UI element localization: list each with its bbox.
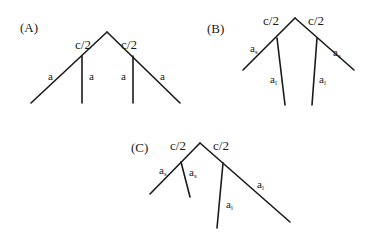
panel-a-edge-3: a <box>121 70 126 82</box>
panel-a-edge-1: a <box>48 70 53 82</box>
panel-c-long-leg <box>217 163 223 228</box>
panel-b-right-long-leg <box>312 38 317 105</box>
panel-b-edge-4: as <box>333 46 341 60</box>
panel-c-right-branch <box>200 143 290 222</box>
panel-b-left-long-leg <box>277 38 285 105</box>
panel-b-edge-1: as <box>250 42 258 56</box>
panel-b-edge-3: al <box>319 73 326 87</box>
panel-a: (A) c/2 c/2 a a a a <box>20 20 180 103</box>
panel-c-edge-3: al <box>226 198 233 212</box>
panel-a-left-branch <box>31 32 107 103</box>
panel-c: (C) c/2 c/2 as as al al <box>131 138 290 228</box>
panel-c-edge-2: as <box>189 166 197 180</box>
panel-a-label: (A) <box>20 20 38 35</box>
panel-a-edge-2: a <box>89 70 94 82</box>
panel-c-half-left: c/2 <box>170 138 186 153</box>
panel-c-half-right: c/2 <box>213 138 229 153</box>
panel-c-edge-4: al <box>257 178 264 192</box>
panel-b-half-right: c/2 <box>308 13 324 28</box>
panel-b-label: (B) <box>207 21 224 36</box>
panel-b-edge-2: al <box>270 73 277 87</box>
panel-b: (B) c/2 c/2 as al al as <box>207 13 354 105</box>
panel-b-half-left: c/2 <box>263 13 279 28</box>
panel-c-edge-1: as <box>159 164 167 178</box>
panel-c-label: (C) <box>131 140 148 155</box>
panel-a-right-branch <box>107 32 180 103</box>
panel-b-right-branch <box>295 18 354 70</box>
panel-a-half-right: c/2 <box>121 37 137 52</box>
tree-diagrams: (A) c/2 c/2 a a a a (B) c/2 c/2 as al al… <box>0 0 367 241</box>
panel-a-edge-4: a <box>160 70 165 82</box>
